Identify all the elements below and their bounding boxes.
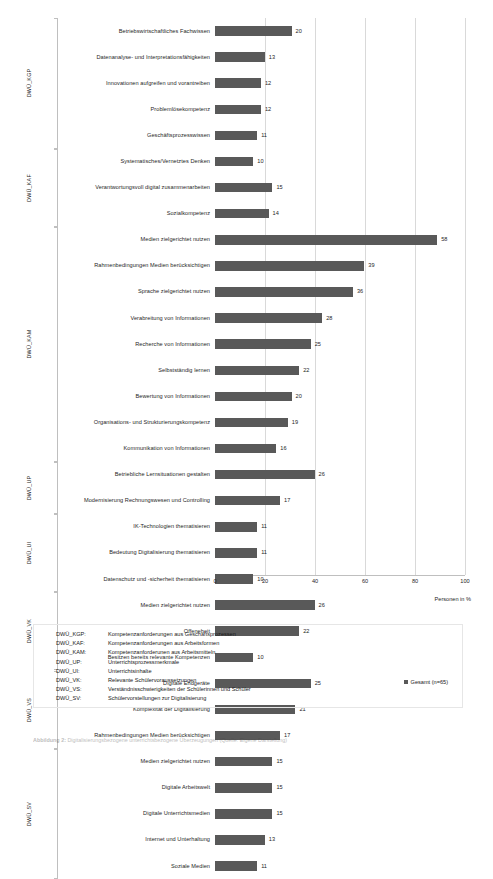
chart-bar-row: Soziale Medien11 [0, 853, 493, 879]
bar-category-label: Betriebliche Lernsituationen gestalten [58, 471, 210, 478]
chart-x-axis: 020406080100 [215, 578, 465, 590]
bar-category-label: Kommunikation von Informationen [58, 445, 210, 452]
bar [215, 757, 272, 767]
series-legend: Gesamt (n=65) [404, 679, 448, 685]
bar-container: 25 [215, 331, 321, 357]
legend-key-row: DWÜ_KGP:Kompetenzanforderungen aus Gesch… [56, 631, 251, 640]
chart-bar-row: Systematisches/Vernetztes Denken10 [0, 148, 493, 174]
bar-value-label: 11 [261, 523, 267, 530]
bar [215, 235, 437, 245]
bar [215, 835, 265, 845]
bar-container: 15 [215, 801, 283, 827]
bar-container: 28 [215, 305, 332, 331]
legend-key-description: Kompetenzanforderungen aus Arbeitsformen [108, 640, 219, 646]
bar-container: 26 [215, 462, 325, 488]
bar-value-label: 26 [319, 471, 325, 478]
chart-bar-row: Verantwortungsvoll digital zusammenarbei… [0, 175, 493, 201]
bar-value-label: 58 [441, 236, 447, 243]
chart-bar-row: Bewertung von Informationen20 [0, 383, 493, 409]
chart-bar-row: Bedeutung Digitalisierung thematisieren1… [0, 540, 493, 566]
x-axis-title: Personen in % [435, 596, 471, 602]
bar-category-label: Internet und Unterhaltung [58, 836, 210, 843]
figure-caption-text: Digitalisierungsbezogene unterrichtsbezo… [67, 737, 287, 743]
legend-key-description: Schülervorstellungen zur Digitalisierung [108, 695, 206, 701]
chart-bar-row: Problemlösekompetenz12 [0, 96, 493, 122]
chart-bar-row: Digitale Arbeitswelt15 [0, 775, 493, 801]
bar-container: 22 [215, 357, 309, 383]
chart-bar-row: Organisations- und Strukturierungskompet… [0, 409, 493, 435]
chart-bar-row: Selbstständig lernen22 [0, 357, 493, 383]
legend-key-code: DWÜ_KAM: [56, 649, 108, 655]
bar-container: 13 [215, 827, 275, 853]
chart-bar-row: Sozialkompetenz14 [0, 201, 493, 227]
bar-value-label: 25 [315, 341, 321, 348]
bar-container: 15 [215, 175, 283, 201]
bar-category-label: Medien zielgerichtet nutzen [58, 236, 210, 243]
chart-bar-row: Medien zielgerichtet nutzen26 [0, 592, 493, 618]
bar-category-label: Organisations- und Strukturierungskompet… [58, 419, 210, 426]
legend-key-description: Relevante Schülervoraussetzungen [108, 677, 196, 683]
bar-value-label: 13 [269, 836, 275, 843]
bar-category-label: Bewertung von Informationen [58, 393, 210, 400]
bar [215, 548, 257, 558]
legend-key-description: Verständnisschwierigkeiten der Schülerin… [108, 686, 251, 692]
bar-category-label: Betriebswirtschaftliches Fachwissen [58, 28, 210, 35]
bar [215, 522, 257, 532]
bar-value-label: 20 [296, 28, 302, 35]
x-axis-tick-label: 0 [213, 578, 216, 584]
bar-value-label: 13 [269, 54, 275, 61]
bar-category-label: Medien zielgerichtet nutzen [58, 602, 210, 609]
bar-category-label: Recherche von Informationen [58, 341, 210, 348]
legend-key-code: DWÜ_KGP: [56, 631, 108, 637]
bar-container: 11 [215, 514, 267, 540]
bar [215, 600, 315, 610]
legend-key-code: DWÜ_UI: [56, 668, 108, 674]
legend-key-row: DWÜ_KAF:Kompetenzanforderungen aus Arbei… [56, 640, 251, 649]
bar-value-label: 10 [257, 158, 263, 165]
chart-plot-area: Betriebswirtschaftliches Fachwissen20Dat… [0, 18, 493, 879]
bar [215, 392, 292, 402]
figure-caption: Abbildung 2: Digitalisierungsbezogene un… [33, 737, 463, 743]
bar [215, 183, 272, 193]
x-axis-tick-label: 100 [460, 578, 469, 584]
bar [215, 78, 261, 88]
bar-value-label: 15 [276, 784, 282, 791]
bar-container: 10 [215, 148, 264, 174]
bar-value-label: 39 [368, 262, 374, 269]
bar [215, 52, 265, 62]
bar-category-label: IK-Technologien thematisieren [58, 523, 210, 530]
bar-container: 12 [215, 70, 271, 96]
bar-value-label: 16 [280, 445, 286, 452]
bar [215, 496, 280, 506]
bar-container: 17 [215, 488, 290, 514]
legend-key-box: DWÜ_KGP:Kompetenzanforderungen aus Gesch… [33, 624, 463, 708]
chart-bar-row: Sprache zielgerichtet nutzen36 [0, 279, 493, 305]
legend-key-code: DWÜ_VS: [56, 686, 108, 692]
chart-bar-row: Verabreitung von Informationen28 [0, 305, 493, 331]
bar [215, 131, 257, 141]
bar [215, 209, 269, 219]
chart-bar-row: Rahmenbedingungen Medien berücksichtigen… [0, 723, 493, 749]
legend-key-description: Unterrichtsprozessmerkmale [108, 659, 179, 665]
bar-container: 58 [215, 227, 447, 253]
chart-bar-row: Rahmenbedingungen Medien berücksichtigen… [0, 253, 493, 279]
bar-category-label: Medien zielgerichtet nutzen [58, 758, 210, 765]
chart-bar-row: Medien zielgerichtet nutzen58 [0, 227, 493, 253]
bar [215, 157, 253, 167]
chart-bar-row: Betriebswirtschaftliches Fachwissen20 [0, 18, 493, 44]
bar-category-label: Digitale Unterrichtsmedien [58, 810, 210, 817]
chart-bar-row: Datenanalyse- und Interpretationsfähigke… [0, 44, 493, 70]
bar [215, 287, 353, 297]
bar-container: 19 [215, 409, 298, 435]
legend-key-description: Kompetenzanforderungen aus Geschäftsproz… [108, 631, 236, 637]
bar-category-label: Bedeutung Digitalisierung thematisieren [58, 549, 210, 556]
bar-category-label: Sprache zielgerichtet nutzen [58, 288, 210, 295]
bar-container: 11 [215, 122, 267, 148]
bar-category-label: Soziale Medien [58, 863, 210, 870]
bar-value-label: 22 [303, 367, 309, 374]
series-color-swatch [404, 680, 408, 684]
bar-category-label: Verabreitung von Informationen [58, 315, 210, 322]
bar-value-label: 15 [276, 184, 282, 191]
chart-bar-row: Digitale Unterrichtsmedien15 [0, 801, 493, 827]
legend-key-row: DWÜ_VK:Relevante Schülervoraussetzungen [56, 677, 251, 686]
